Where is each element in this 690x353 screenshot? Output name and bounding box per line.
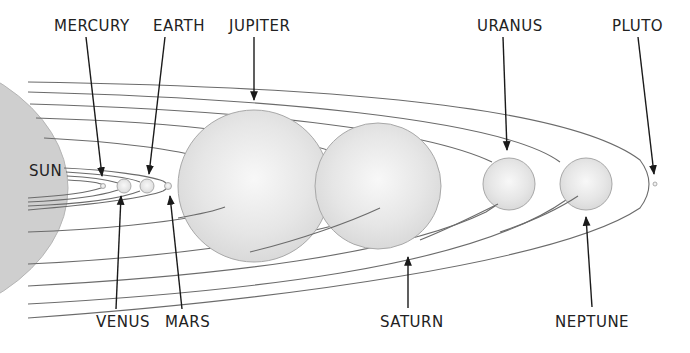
solar-system-diagram	[0, 0, 690, 353]
planet-venus[interactable]	[117, 179, 131, 193]
arrow-uranus	[503, 37, 507, 150]
label-pluto: PLUTO	[612, 19, 663, 34]
planets	[101, 110, 658, 262]
label-earth: EARTH	[153, 19, 205, 34]
label-jupiter: JUPITER	[229, 19, 290, 34]
orbit-jupiter	[44, 138, 202, 158]
planet-saturn[interactable]	[315, 123, 441, 249]
arrow-neptune	[586, 217, 592, 307]
label-uranus: URANUS	[477, 19, 543, 34]
sun	[0, 43, 68, 333]
label-mercury: MERCURY	[54, 19, 130, 34]
planet-earth[interactable]	[140, 179, 154, 193]
arrow-venus	[116, 196, 121, 309]
label-mars: MARS	[165, 315, 210, 330]
arrow-pluto	[638, 37, 654, 174]
arrow-earth	[149, 37, 165, 174]
planet-mars[interactable]	[165, 183, 172, 190]
label-sun: SUN	[29, 164, 62, 179]
planet-uranus[interactable]	[483, 158, 535, 210]
label-neptune: NEPTUNE	[555, 315, 629, 330]
planet-jupiter[interactable]	[178, 110, 330, 262]
label-saturn: SATURN	[380, 315, 444, 330]
planet-mercury[interactable]	[101, 184, 106, 189]
planet-pluto[interactable]	[653, 182, 657, 186]
label-venus: VENUS	[96, 315, 150, 330]
